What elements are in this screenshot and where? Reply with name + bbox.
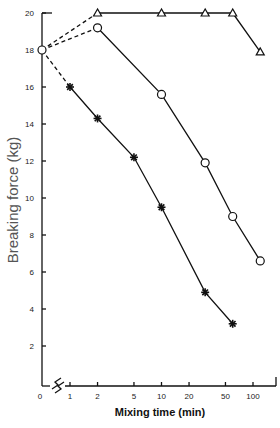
y-tick-label: 10: [25, 194, 34, 203]
initial-point-marker: [38, 46, 46, 54]
y-tick-label: 18: [25, 46, 34, 55]
asterisk-marker: [229, 320, 237, 328]
y-tick-label: 12: [25, 157, 34, 166]
dashed-connector: [42, 50, 70, 87]
y-tick-label: 20: [25, 9, 34, 18]
y-tick-label: 2: [30, 342, 35, 351]
x-tick-label: 2: [95, 392, 100, 401]
circle-marker: [201, 159, 209, 167]
asterisk-marker: [66, 83, 74, 91]
series-group: [38, 9, 264, 328]
chart: 24681012141618200125102050100 Mixing tim…: [0, 0, 280, 428]
series-line-triangles: [98, 13, 261, 52]
circle-marker: [256, 257, 264, 265]
y-tick-label: 14: [25, 120, 34, 129]
y-tick-label: 4: [30, 305, 35, 314]
asterisk-marker: [94, 114, 102, 122]
y-axis-title: Breaking force (kg): [4, 137, 21, 264]
x-tick-label: 0: [38, 392, 43, 401]
series-line-asterisks: [70, 87, 233, 324]
circle-marker: [94, 24, 102, 32]
asterisk-marker: [130, 153, 138, 161]
x-tick-label: 100: [246, 392, 260, 401]
x-axis-title: Mixing time (min): [115, 406, 206, 418]
circle-marker: [158, 90, 166, 98]
x-tick-label: 5: [132, 392, 137, 401]
y-tick-label: 16: [25, 83, 34, 92]
x-tick-label: 20: [185, 392, 194, 401]
x-tick-label: 10: [157, 392, 166, 401]
axes: 24681012141618200125102050100: [25, 9, 276, 401]
asterisk-marker: [158, 203, 166, 211]
dashed-connector: [42, 28, 98, 50]
circle-marker: [229, 213, 237, 221]
y-tick-label: 8: [30, 231, 35, 240]
x-tick-label: 50: [221, 392, 230, 401]
x-tick-label: 1: [68, 392, 73, 401]
y-tick-label: 6: [30, 268, 35, 277]
asterisk-marker: [201, 288, 209, 296]
